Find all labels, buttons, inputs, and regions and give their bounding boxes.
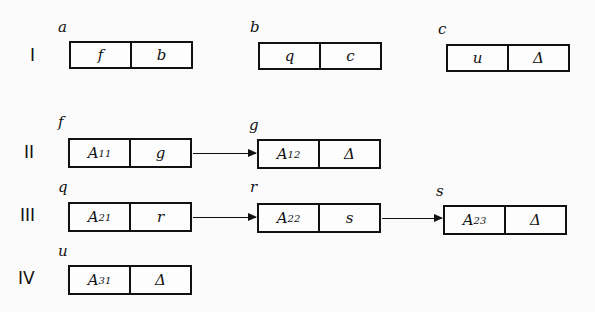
node-q: A21 r: [68, 202, 192, 232]
edge-r-s-arrow: [382, 218, 442, 219]
node-c-right: Δ: [507, 46, 568, 70]
node-label-g: g: [249, 116, 259, 134]
edge-f-g-arrow: [193, 153, 256, 154]
node-f-right: g: [129, 140, 190, 166]
node-label-f: f: [58, 113, 64, 131]
node-s-left: A23: [445, 207, 504, 233]
node-a-left: f: [71, 43, 130, 67]
node-label-b: b: [250, 18, 260, 36]
node-f: A11 g: [68, 138, 192, 168]
node-label-u: u: [58, 242, 68, 260]
node-f-left: A11: [70, 140, 129, 166]
node-g-right: Δ: [318, 141, 379, 167]
node-s-right: Δ: [504, 207, 565, 233]
node-label-a: a: [58, 18, 67, 36]
node-c-left: u: [448, 46, 507, 70]
node-u-right: Δ: [129, 267, 190, 293]
node-g-left: A12: [259, 141, 318, 167]
node-a: f b: [69, 41, 193, 69]
node-s: A23 Δ: [443, 205, 567, 235]
edge-q-r-arrow: [193, 217, 256, 218]
node-label-c: c: [438, 20, 446, 38]
node-u: A31 Δ: [68, 265, 192, 295]
node-label-r: r: [250, 178, 257, 196]
node-r-right: s: [318, 205, 379, 231]
node-q-left: A21: [70, 204, 129, 230]
node-r-left: A22: [259, 205, 318, 231]
node-q-right: r: [129, 204, 190, 230]
node-b-left: q: [260, 44, 319, 68]
row-label-i: I: [30, 45, 35, 65]
row-label-iii: III: [20, 205, 35, 225]
node-g: A12 Δ: [257, 139, 381, 169]
node-label-q: q: [58, 178, 68, 196]
node-label-s: s: [436, 182, 444, 200]
node-r: A22 s: [257, 203, 381, 233]
node-a-right: b: [130, 43, 191, 67]
node-c: u Δ: [446, 44, 570, 72]
node-u-left: A31: [70, 267, 129, 293]
node-b-right: c: [319, 44, 380, 68]
node-b: q c: [258, 42, 382, 70]
row-label-iv: IV: [18, 268, 35, 288]
row-label-ii: II: [24, 142, 34, 162]
